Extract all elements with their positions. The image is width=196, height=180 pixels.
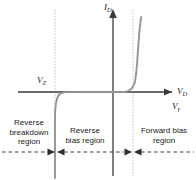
x-axis-arrowhead [164,89,172,96]
region-label-reverse-bias: Reverse bias region [58,126,112,145]
diode-curve [55,17,141,178]
forward-bias-left-arrowhead [134,149,142,156]
zener-voltage-label: VZ [37,75,46,85]
reverse-bias-right-arrowhead [125,149,133,156]
reverse-bias-left-arrowhead [57,149,65,156]
cutin-voltage-label: Vγ [172,101,180,111]
region-label-reverse-breakdown: Reverse breakdown region [2,118,56,147]
figure-canvas [0,0,196,180]
reverse-breakdown-right-arrowhead [48,149,56,156]
y-axis-label: ID [104,2,112,12]
region-label-forward-bias: Forward bias region [134,126,194,145]
x-axis-label: VD [177,86,187,96]
diode-iv-characteristic-figure: ID VD VZ Vγ Reverse breakdown region Rev… [0,0,196,180]
